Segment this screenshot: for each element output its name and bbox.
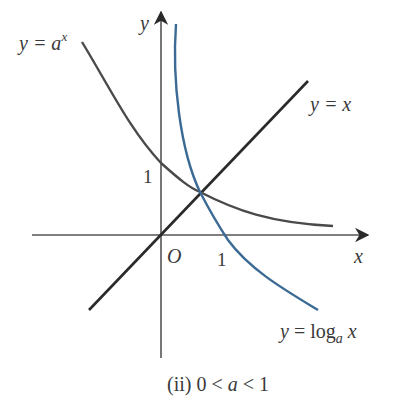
logarithm-curve <box>175 24 318 310</box>
x-axis-label: x <box>353 245 363 267</box>
logarithm-label-eq: = log <box>289 320 336 343</box>
caption-suffix: 1 <box>259 373 269 395</box>
exponential-curve <box>82 42 333 226</box>
caption-variable: a <box>228 373 238 395</box>
exponential-label-exponent: x <box>60 29 67 44</box>
exponential-label-base: y = a <box>17 32 61 55</box>
identity-line <box>89 81 308 310</box>
exponential-label: y = ax <box>17 29 67 55</box>
logarithm-label-arg: x <box>343 320 357 342</box>
y-axis-label: y <box>138 12 149 35</box>
figure-caption: (ii) 0 < a < 1 <box>167 373 269 396</box>
y-tick-label-1: 1 <box>143 166 153 187</box>
logarithm-label: y = loga x <box>278 320 357 346</box>
identity-label: y = x <box>308 93 351 116</box>
caption-prefix: (ii) 0 <box>167 373 206 396</box>
function-graph: y x O 1 1 y = ax y = x y = loga x (ii) 0… <box>0 0 395 419</box>
x-tick-label-1: 1 <box>217 249 227 270</box>
caption-lt-2: < <box>243 373 254 395</box>
logarithm-label-base: a <box>336 331 343 346</box>
caption-lt-1: < <box>211 373 222 395</box>
origin-label: O <box>167 245 181 267</box>
logarithm-label-y: y <box>278 320 289 343</box>
